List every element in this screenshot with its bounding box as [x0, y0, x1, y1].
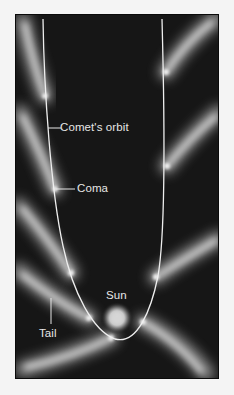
label-comets-orbit: Comet's orbit	[60, 121, 129, 133]
label-sun: Sun	[106, 289, 127, 301]
comet-orbit-diagram	[15, 14, 219, 379]
orbit-illustration	[16, 15, 219, 379]
comet-orbit-line	[43, 19, 164, 340]
label-coma: Coma	[77, 182, 108, 194]
label-tail: Tail	[39, 327, 57, 339]
